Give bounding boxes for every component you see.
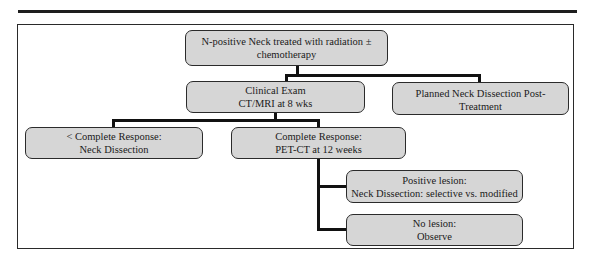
node-clinical-exam: Clinical Exam CT/MRI at 8 wks xyxy=(186,81,365,113)
node-incomplete-response: < Complete Response: Neck Dissection xyxy=(25,127,203,159)
connector-to-no-lesion xyxy=(317,228,347,231)
node-planned-dissection: Planned Neck Dissection Post-Treatment xyxy=(392,82,569,115)
node-root-line-2: chemotherapy xyxy=(257,48,316,61)
node-complete-response-line-2: PET-CT at 12 weeks xyxy=(275,143,362,156)
connector-clinical-horizontal xyxy=(112,119,320,122)
node-positive-lesion: Positive lesion: Neck Dissection: select… xyxy=(346,170,523,203)
connector-complete-down xyxy=(317,158,320,231)
node-no-lesion: No lesion: Observe xyxy=(346,214,523,246)
node-root: N-positive Neck treated with radiation ±… xyxy=(185,30,388,66)
node-incomplete-response-line-2: Neck Dissection xyxy=(79,143,148,156)
node-complete-response-line-1: Complete Response: xyxy=(275,130,362,143)
node-positive-lesion-line-2: Neck Dissection: selective vs. modified xyxy=(351,187,518,200)
node-positive-lesion-line-1: Positive lesion: xyxy=(402,174,466,187)
node-clinical-exam-line-2: CT/MRI at 8 wks xyxy=(239,97,313,110)
node-clinical-exam-line-1: Clinical Exam xyxy=(245,84,305,97)
connector-to-positive xyxy=(317,185,347,188)
node-root-line-1: N-positive Neck treated with radiation ± xyxy=(202,35,372,48)
top-rule xyxy=(18,10,577,13)
node-no-lesion-line-1: No lesion: xyxy=(413,217,456,230)
node-no-lesion-line-2: Observe xyxy=(417,230,452,243)
node-planned-dissection-line-1: Planned Neck Dissection Post-Treatment xyxy=(397,87,564,113)
node-complete-response: Complete Response: PET-CT at 12 weeks xyxy=(231,127,406,159)
node-incomplete-response-line-1: < Complete Response: xyxy=(66,130,161,143)
connector-root-horizontal xyxy=(285,74,481,77)
